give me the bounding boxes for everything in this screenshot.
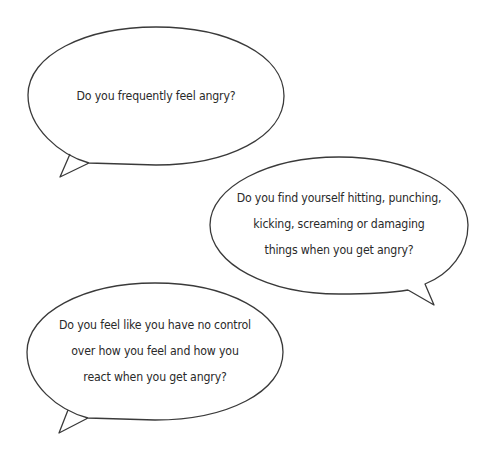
bubble-1-text: Do you frequently feel angry? xyxy=(54,83,258,109)
bubble-3-line-2: over how you feel and how you xyxy=(49,338,262,364)
bubble-2-text: Do you find yourself hitting, punching, … xyxy=(229,185,449,263)
bubble-2-line-1: Do you find yourself hitting, punching, xyxy=(229,185,449,211)
bubble-2-line-2: kicking, screaming or damaging xyxy=(229,211,449,237)
bubble-3-line-1: Do you feel like you have no control xyxy=(49,312,262,338)
bubble-1-line-1: Do you frequently feel angry? xyxy=(54,83,258,109)
bubble-2-line-3: things when you get angry? xyxy=(229,237,449,263)
bubble-3-line-3: react when you get angry? xyxy=(49,364,262,390)
bubble-3-text: Do you feel like you have no control ove… xyxy=(49,312,262,390)
